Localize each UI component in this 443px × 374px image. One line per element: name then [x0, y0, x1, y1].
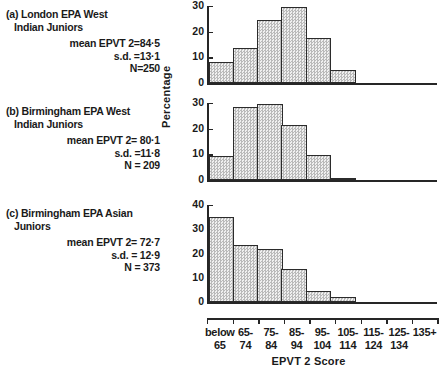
y-tick-label-a-30: 30	[192, 0, 204, 11]
y-tick-label-b-30: 30	[192, 96, 204, 108]
x-axis-baseline-a	[207, 83, 437, 85]
category-tick-9	[437, 318, 438, 324]
panel-n-a: N=250	[0, 62, 160, 75]
y-tick-label-b-0: 0	[198, 173, 204, 185]
y-tick-label-a-20: 20	[192, 25, 204, 37]
bar-a-5[interactable]	[330, 70, 356, 83]
bar-b-4[interactable]	[306, 155, 332, 180]
category-label-line2-7: 134	[380, 339, 418, 352]
bar-a-4[interactable]	[306, 38, 332, 83]
y-tick-b-0	[208, 180, 213, 181]
y-tick-label-c-40: 40	[192, 198, 204, 210]
panel-title-b: (b) Birmingham EPA West Indian Juniors	[0, 105, 168, 130]
bar-b-2[interactable]	[257, 104, 283, 180]
category-tick-4	[309, 318, 310, 324]
histogram-panel-b: 0102030	[176, 103, 437, 180]
bar-b-5[interactable]	[330, 178, 356, 180]
histogram-panel-a: 0102030	[176, 6, 437, 83]
bar-a-3[interactable]	[281, 7, 307, 83]
x-axis-baseline-b	[207, 180, 437, 182]
panel-title-a: (a) London EPA West Indian Juniors	[0, 8, 168, 33]
category-label-line1-8: 135+	[406, 326, 443, 339]
bar-group-b	[209, 103, 439, 180]
bar-c-5[interactable]	[330, 297, 356, 302]
category-tick-6	[361, 318, 362, 324]
panel-caption-a: (a) London EPA West Indian Juniors mean …	[0, 8, 168, 75]
panel-n-b: N = 209	[0, 159, 160, 172]
panel-sd-a: s.d. =13·1	[0, 50, 160, 63]
plot-area-b: 0102030	[176, 103, 437, 180]
x-axis-baseline-c	[207, 302, 437, 304]
category-tick-0	[207, 318, 208, 324]
bar-a-2[interactable]	[257, 20, 283, 83]
panel-stats-b: mean EPVT 2= 80·1 s.d. =11·8 N = 209	[0, 134, 168, 172]
bar-a-1[interactable]	[233, 48, 259, 83]
panel-mean-c: mean EPVT 2= 72·7	[0, 236, 160, 249]
plot-area-c: 010203040	[176, 205, 437, 302]
panel-stats-a: mean EPVT 2=84·5 s.d. =13·1 N=250	[0, 37, 168, 75]
plot-area-a: 0102030	[176, 6, 437, 83]
bar-a-0[interactable]	[209, 62, 235, 83]
y-tick-label-c-0: 0	[198, 295, 204, 307]
category-tick-3	[284, 318, 285, 324]
panel-caption-c: (c) Birmingham EPA Asian Juniors mean EP…	[0, 207, 168, 274]
panel-caption-b: (b) Birmingham EPA West Indian Juniors m…	[0, 105, 168, 172]
bar-c-1[interactable]	[233, 245, 259, 302]
panel-n-c: N = 373	[0, 261, 160, 274]
bar-b-3[interactable]	[281, 125, 307, 180]
y-tick-label-a-0: 0	[198, 76, 204, 88]
bar-c-2[interactable]	[257, 249, 283, 302]
y-tick-label-c-30: 30	[192, 222, 204, 234]
bar-c-0[interactable]	[209, 217, 235, 302]
category-axis-rule	[207, 318, 437, 320]
category-label-8: 135+	[406, 326, 443, 339]
panel-sd-c: s.d. = 12·9	[0, 249, 160, 262]
y-tick-a-0	[208, 83, 213, 84]
panel-mean-b: mean EPVT 2= 80·1	[0, 134, 160, 147]
panel-mean-a: mean EPVT 2=84·5	[0, 37, 160, 50]
y-tick-label-a-10: 10	[192, 50, 204, 62]
bar-b-0[interactable]	[209, 156, 235, 180]
category-tick-8	[412, 318, 413, 324]
y-tick-label-c-20: 20	[192, 247, 204, 259]
x-axis-title: EPVT 2 Score	[176, 355, 441, 367]
bar-b-1[interactable]	[233, 107, 259, 180]
y-tick-label-b-20: 20	[192, 122, 204, 134]
category-tick-2	[258, 318, 259, 324]
y-tick-label-c-10: 10	[192, 271, 204, 283]
category-tick-7	[386, 318, 387, 324]
category-tick-5	[335, 318, 336, 324]
panel-title-c: (c) Birmingham EPA Asian Juniors	[0, 207, 168, 232]
panel-stats-c: mean EPVT 2= 72·7 s.d. = 12·9 N = 373	[0, 236, 168, 274]
bar-c-4[interactable]	[306, 291, 332, 302]
y-tick-label-b-10: 10	[192, 147, 204, 159]
bar-group-a	[209, 6, 439, 83]
bar-group-c	[209, 205, 439, 302]
y-axis-title: Percentage	[160, 66, 172, 128]
histogram-panel-c: 010203040	[176, 205, 437, 302]
panel-sd-b: s.d. =11·8	[0, 147, 160, 160]
y-tick-c-0	[208, 302, 213, 303]
category-tick-1	[233, 318, 234, 324]
bar-c-3[interactable]	[281, 269, 307, 302]
